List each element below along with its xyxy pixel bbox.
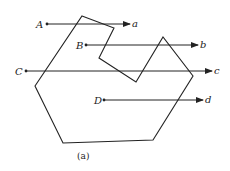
label-C: C xyxy=(15,66,23,77)
ray-d: D d xyxy=(93,94,211,106)
figure-caption: (a) xyxy=(77,151,89,161)
label-B: B xyxy=(75,40,83,51)
ray-a: A a xyxy=(35,18,138,30)
label-a: a xyxy=(132,18,138,29)
label-c: c xyxy=(214,65,220,76)
label-d: d xyxy=(205,94,211,105)
ray-b: B b xyxy=(75,39,206,51)
label-D: D xyxy=(93,95,102,106)
label-A: A xyxy=(35,19,43,30)
label-b: b xyxy=(200,39,206,50)
concave-polygon xyxy=(35,16,193,143)
ray-c: C c xyxy=(15,65,220,77)
point-in-polygon-diagram: A a B b C c D d (a) xyxy=(0,0,230,171)
